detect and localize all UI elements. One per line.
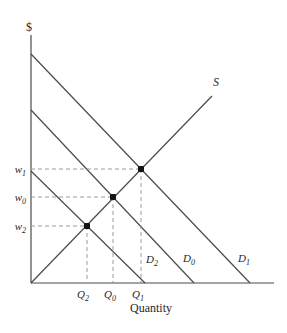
price-w2-label: w2 bbox=[15, 220, 26, 235]
demand-d2-label: D2 bbox=[145, 253, 158, 268]
diagram-canvas: $QuantitySw1w0w2Q2Q0Q1D2D0D1 bbox=[0, 0, 287, 333]
y-axis-label: $ bbox=[26, 20, 32, 34]
demand-d1-label: D1 bbox=[237, 252, 250, 267]
equilibrium-point-e2 bbox=[84, 223, 90, 229]
supply-curve-label: S bbox=[213, 75, 219, 89]
supply-demand-diagram: $QuantitySw1w0w2Q2Q0Q1D2D0D1 bbox=[0, 0, 287, 333]
quantity-q2-label: Q2 bbox=[77, 288, 89, 303]
equilibrium-point-e0 bbox=[110, 194, 116, 200]
x-axis-label: Quantity bbox=[130, 301, 172, 315]
demand-d0-label: D0 bbox=[182, 252, 195, 267]
quantity-q0-label: Q0 bbox=[104, 288, 116, 303]
equilibrium-point-e1 bbox=[138, 166, 144, 172]
price-w1-label: w1 bbox=[15, 163, 26, 178]
price-w0-label: w0 bbox=[15, 191, 26, 206]
